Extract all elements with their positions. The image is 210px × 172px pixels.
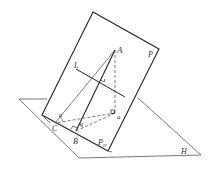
- label-a-foot: a: [117, 113, 121, 121]
- label-p: P: [147, 50, 153, 59]
- geometry-diagram: A P L C B a α α PH H: [0, 0, 210, 172]
- label-a: A: [116, 45, 123, 55]
- label-l: L: [73, 61, 79, 70]
- plane-p: [42, 12, 159, 151]
- label-b: B: [73, 137, 78, 146]
- label-c: C: [52, 124, 58, 133]
- label-h: H: [180, 147, 188, 156]
